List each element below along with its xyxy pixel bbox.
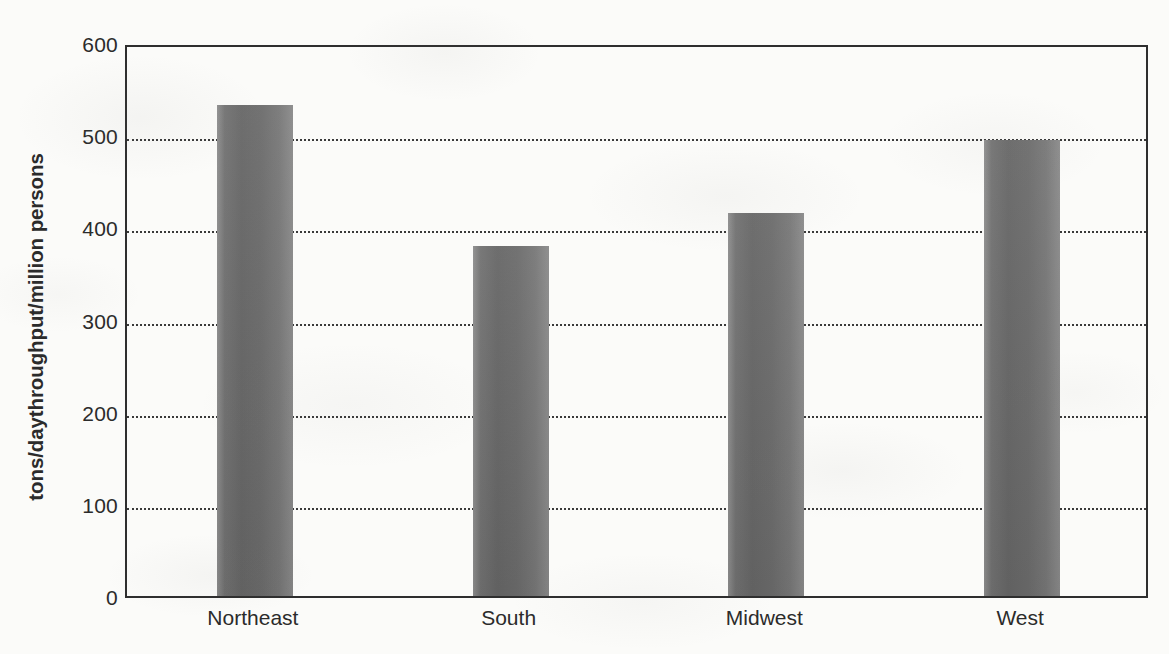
bar-chart-figure: tons/daythroughput/million persons 01002… xyxy=(0,0,1169,654)
y-tick-label: 500 xyxy=(56,125,118,149)
bar xyxy=(728,213,804,596)
bar xyxy=(984,140,1060,596)
x-axis-tick-labels: NortheastSouthMidwestWest xyxy=(125,606,1148,646)
bar xyxy=(473,246,549,596)
x-tick-label: South xyxy=(481,606,536,630)
y-axis-title-label: tons/daythroughput/million persons xyxy=(24,153,48,500)
y-tick-label: 400 xyxy=(56,217,118,241)
bar xyxy=(217,105,293,596)
y-tick-label: 100 xyxy=(56,494,118,518)
x-tick-label: Northeast xyxy=(207,606,298,630)
y-tick-label: 0 xyxy=(56,586,118,610)
x-tick-label: Midwest xyxy=(726,606,803,630)
y-tick-label: 300 xyxy=(56,310,118,334)
y-axis-tick-labels: 0100200300400500600 xyxy=(52,0,118,654)
x-tick-label: West xyxy=(996,606,1043,630)
y-tick-label: 200 xyxy=(56,402,118,426)
bars-group xyxy=(127,47,1146,596)
y-tick-label: 600 xyxy=(56,33,118,57)
plot-area xyxy=(125,45,1148,598)
